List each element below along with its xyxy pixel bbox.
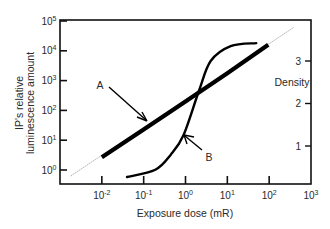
y-axis-left-title-line2: luminescence amount xyxy=(24,52,36,154)
y-axis-left-title: IP's relative luminescence amount xyxy=(13,52,36,154)
y-right-tick-label: 2 xyxy=(295,98,301,109)
series-b-curve xyxy=(127,43,256,177)
x-axis-title: Exposure dose (mR) xyxy=(137,207,233,219)
x-tick-label: 100 xyxy=(178,189,193,201)
y-left-tick-label: 104 xyxy=(41,44,56,56)
y-left-tick-label: 101 xyxy=(41,134,56,146)
x-tick-label: 102 xyxy=(262,189,277,201)
y-axis-right-ticks: 123 xyxy=(295,56,311,152)
y-left-tick-label: 105 xyxy=(41,15,56,27)
annotation-a: A xyxy=(96,79,147,121)
arrow-a-icon xyxy=(109,87,146,120)
annotation-b-label: B xyxy=(205,151,212,163)
arrow-b-icon xyxy=(185,136,202,150)
y-left-tick-label: 102 xyxy=(41,104,56,116)
x-tick-label: 101 xyxy=(220,189,235,201)
x-tick-label: 10-1 xyxy=(135,189,152,201)
x-tick-label: 103 xyxy=(303,189,318,201)
x-tick-label: 10-2 xyxy=(93,189,110,201)
y-right-tick-label: 3 xyxy=(295,56,301,67)
y-right-tick-label: 1 xyxy=(295,141,301,152)
y-axis-right-title: Density xyxy=(274,76,310,88)
y-left-tick-label: 100 xyxy=(41,164,56,176)
y-axis-left-ticks: 100101102103104105 xyxy=(41,15,67,176)
x-axis-ticks: 10-210-1100101102103 xyxy=(93,176,318,201)
annotation-a-label: A xyxy=(96,79,103,91)
chart: IP's relative luminescence amount 100101… xyxy=(0,0,330,229)
y-left-tick-label: 103 xyxy=(41,74,56,86)
annotation-b: B xyxy=(184,135,213,163)
